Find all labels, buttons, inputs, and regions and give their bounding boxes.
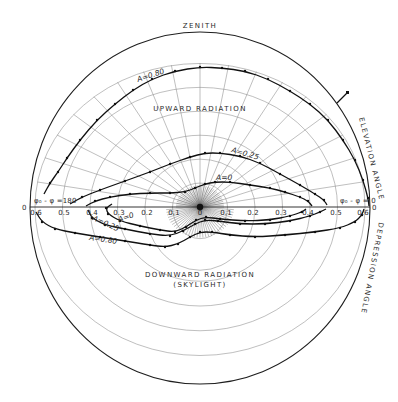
data-point-marker	[149, 192, 151, 194]
data-point-marker	[205, 216, 207, 218]
curve-label-upper-a025: A=0.25	[229, 145, 260, 162]
elevation-angle-label: ELEVATION ANGLE	[357, 117, 385, 202]
data-point-marker	[239, 223, 241, 225]
data-point-marker	[109, 196, 111, 198]
data-point-marker	[284, 234, 286, 236]
data-point-marker	[96, 119, 98, 121]
data-point-marker	[269, 187, 271, 189]
data-point-marker	[323, 199, 325, 201]
data-point-marker	[204, 183, 206, 185]
data-point-marker	[362, 179, 364, 181]
data-point-marker	[184, 191, 186, 193]
data-point-marker	[199, 66, 201, 68]
data-point-marker	[79, 139, 81, 141]
data-point-marker	[169, 192, 171, 194]
sun-direction-marker	[337, 91, 349, 103]
tick-right-0.2: 0.2	[247, 209, 259, 217]
data-point-marker	[307, 200, 309, 202]
data-point-marker	[259, 162, 261, 164]
data-point-marker	[354, 159, 356, 161]
data-point-marker	[182, 230, 184, 232]
data-point-marker	[314, 193, 316, 195]
data-point-marker	[149, 171, 151, 173]
tick-right-0.5: 0.5	[330, 209, 342, 217]
data-point-marker	[124, 180, 126, 182]
data-point-marker	[81, 196, 83, 198]
data-point-marker	[195, 219, 197, 221]
data-point-marker	[132, 89, 134, 91]
data-point-marker	[164, 246, 166, 248]
azimuth-spoke	[144, 72, 200, 207]
axis-end-right: 0	[372, 204, 377, 212]
data-point-marker	[299, 184, 301, 186]
albedo-curves	[36, 66, 369, 248]
zenith-label: ZENITH	[183, 22, 217, 30]
data-point-marker	[99, 189, 101, 191]
data-point-marker	[149, 244, 151, 246]
data-point-marker	[319, 211, 321, 213]
data-point-marker	[342, 139, 344, 141]
data-point-marker	[264, 223, 266, 225]
curve-label-upper-a0: A=0	[215, 173, 232, 182]
data-point-marker	[254, 236, 256, 238]
data-point-marker	[159, 229, 161, 231]
polar-radiation-diagram: ZENITH UPWARD RADIATION DOWNWARD RADIATI…	[0, 0, 398, 402]
data-point-marker	[139, 225, 141, 227]
data-point-marker	[204, 219, 206, 221]
data-point-marker	[189, 156, 191, 158]
data-point-marker	[289, 90, 291, 92]
data-point-marker	[339, 227, 341, 229]
data-point-marker	[66, 157, 68, 159]
data-point-marker	[244, 220, 246, 222]
data-point-marker	[279, 173, 281, 175]
data-point-marker	[41, 221, 43, 223]
data-point-marker	[199, 231, 201, 233]
data-point-marker	[217, 220, 219, 222]
depression-angle-label: DEPRESSION ANGLE	[359, 222, 385, 315]
data-point-marker	[211, 231, 213, 233]
tick-left-0.2: 0.2	[141, 209, 153, 217]
data-point-marker	[221, 67, 223, 69]
data-point-marker	[124, 240, 126, 242]
data-point-marker	[289, 215, 291, 217]
tick-left-0.5: 0.5	[58, 209, 70, 217]
azimuth-0-label: φ₀ - φ = 0	[340, 197, 376, 205]
data-point-marker	[244, 70, 246, 72]
data-point-marker	[219, 218, 221, 220]
data-point-marker	[124, 228, 126, 230]
data-point-marker	[327, 119, 329, 121]
upward-radiation-label: UPWARD RADIATION	[153, 105, 247, 113]
data-point-marker	[267, 78, 269, 80]
data-point-marker	[354, 221, 356, 223]
data-point-marker	[289, 220, 291, 222]
downward-radiation-label: DOWNWARD RADIATION	[145, 271, 255, 279]
data-point-marker	[219, 152, 221, 154]
tick-right-0.3: 0.3	[275, 209, 287, 217]
data-point-marker	[194, 187, 196, 189]
axis-end-left: 0	[22, 204, 27, 212]
data-point-marker	[169, 235, 171, 237]
data-point-marker	[74, 232, 76, 234]
skylight-label: (SKYLIGHT)	[173, 281, 226, 289]
tick-left-0.6: 0.6	[30, 209, 42, 217]
data-point-marker	[204, 152, 206, 154]
data-point-marker	[189, 236, 191, 238]
data-point-marker	[284, 191, 286, 193]
tick-right-0.4: 0.4	[302, 209, 314, 217]
data-point-marker	[269, 219, 271, 221]
tick-right-0.6: 0.6	[357, 209, 369, 217]
data-point-marker	[185, 226, 187, 228]
data-point-marker	[194, 223, 196, 225]
data-point-marker	[174, 70, 176, 72]
data-point-marker	[177, 243, 179, 245]
azimuth-spoke	[200, 72, 256, 207]
data-point-marker	[49, 182, 51, 184]
data-point-marker	[129, 193, 131, 195]
data-point-marker	[249, 184, 251, 186]
data-point-marker	[299, 196, 301, 198]
data-point-marker	[174, 231, 176, 233]
data-point-marker	[54, 228, 56, 230]
azimuth-spoke	[200, 114, 326, 207]
tick-center: 0	[198, 209, 203, 217]
curve-label-lower-a080: A=0.80	[88, 233, 118, 246]
